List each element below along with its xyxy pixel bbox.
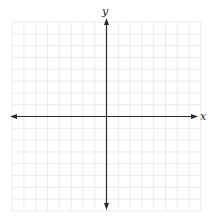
x-axis-left-arrow-icon [10, 114, 17, 119]
y-axis-label: y [101, 5, 109, 18]
x-axis-right-arrow-icon [191, 114, 198, 119]
y-axis-bottom-arrow-icon [104, 203, 109, 210]
y-axis-top-arrow-icon [104, 18, 109, 25]
coordinate-plane: x y [0, 0, 214, 216]
x-axis-label: x [200, 110, 207, 123]
